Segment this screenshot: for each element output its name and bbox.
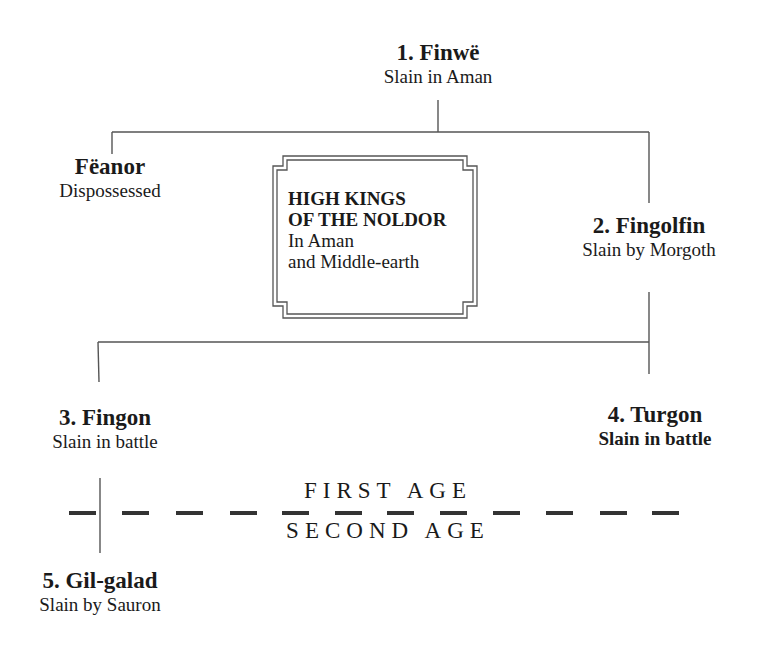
node-fate: Slain in battle	[20, 431, 190, 453]
node-name: Fëanor	[30, 154, 190, 180]
subtitle-line-1: In Aman	[288, 230, 446, 251]
node-feanor: Fëanor Dispossessed	[30, 154, 190, 202]
title-line-2: OF THE NOLDOR	[288, 209, 446, 230]
second-age-label: SECOND AGE	[230, 518, 546, 544]
node-gil-galad: 5. Gil-galad Slain by Sauron	[10, 568, 190, 616]
node-fate: Slain in Aman	[338, 66, 538, 88]
node-name: 3. Fingon	[20, 405, 190, 431]
node-fate: Slain by Morgoth	[549, 239, 749, 261]
node-turgon: 4. Turgon Slain in battle	[570, 402, 740, 450]
node-fate: Slain by Sauron	[10, 594, 190, 616]
node-fingon: 3. Fingon Slain in battle	[20, 405, 190, 453]
node-name: 5. Gil-galad	[10, 568, 190, 594]
tree-connectors	[0, 0, 776, 649]
subtitle-line-2: and Middle-earth	[288, 251, 446, 272]
title-line-1: HIGH KINGS	[288, 188, 446, 209]
first-age-label: FIRST AGE	[230, 478, 546, 504]
node-name: 4. Turgon	[570, 402, 740, 428]
title-box: HIGH KINGS OF THE NOLDOR In Aman and Mid…	[288, 188, 446, 272]
node-fate: Slain in battle	[570, 428, 740, 450]
node-finwe: 1. Finwë Slain in Aman	[338, 40, 538, 88]
node-fingolfin: 2. Fingolfin Slain by Morgoth	[549, 213, 749, 261]
node-fate: Dispossessed	[30, 180, 190, 202]
node-name: 1. Finwë	[338, 40, 538, 66]
node-name: 2. Fingolfin	[549, 213, 749, 239]
